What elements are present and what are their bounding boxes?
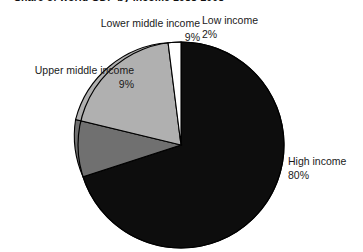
slice-label-high-income: High income 80% [288, 155, 363, 182]
slice-value-upper-middle-income: 9% [2, 78, 134, 92]
slice-value-low-income: 2% [202, 28, 312, 42]
slice-label-high-income-text: High income [288, 155, 346, 167]
slice-label-upper-middle-income-text: Upper middle income [35, 64, 134, 76]
slice-label-lower-middle-income: Lower middle income 9% [55, 17, 200, 44]
slice-value-lower-middle-income: 9% [55, 31, 200, 45]
pie-chart-figure: Share of world GDP by income 1988-2008 L… [0, 0, 363, 252]
slice-label-low-income: Low income 2% [202, 14, 312, 41]
slice-label-lower-middle-income-text: Lower middle income [101, 17, 200, 29]
slice-value-high-income: 80% [288, 169, 363, 183]
slice-label-upper-middle-income: Upper middle income 9% [2, 64, 134, 91]
slice-label-low-income-text: Low income [202, 14, 258, 26]
